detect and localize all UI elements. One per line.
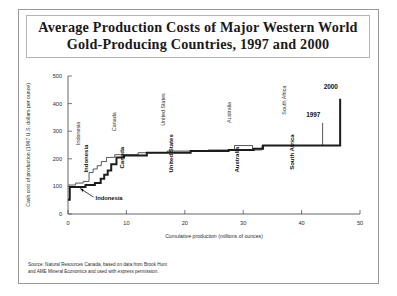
x-tick-label: 0 — [66, 220, 69, 226]
series-line-2000 — [68, 99, 340, 200]
country-label-thin-canada: Canada — [111, 112, 117, 131]
x-tick-label: 10 — [123, 220, 129, 226]
y-tick-label: 100 — [53, 183, 62, 189]
x-tick-label: 30 — [240, 220, 246, 226]
x-axis-title: Cumulative production (millions of ounce… — [165, 233, 263, 239]
indonesia-callout-label: Indonesia — [96, 195, 124, 201]
series-end-label-1997: 1997 — [306, 111, 321, 118]
indonesia-callout-arrowhead — [80, 189, 83, 192]
country-label-thin-indonesia: Indonesia — [75, 122, 81, 145]
chart-title-line-1: Average Production Costs of Major Wester… — [31, 19, 365, 36]
country-label-bold-canada: Canada — [119, 146, 125, 168]
y-tick-label: 400 — [53, 101, 62, 107]
country-label-bold-australia: Australia — [234, 146, 240, 172]
source-line-2: and AME Mineral Economics and used with … — [28, 269, 348, 275]
source-note: Source: Natural Resources Canada, based … — [28, 262, 348, 275]
y-axis-title: Cash cost of production (1997 U.S. dolla… — [25, 83, 31, 207]
plot-area: 010020030040050001020304050Cumulative pr… — [19, 62, 380, 247]
x-tick-label: 20 — [182, 220, 188, 226]
x-tick-label: 40 — [298, 220, 304, 226]
y-tick-label: 200 — [53, 156, 62, 162]
y-tick-label: 0 — [59, 211, 62, 217]
country-label-thin-south-africa: South Africa — [281, 86, 287, 115]
country-label-thin-australia: Australia — [226, 102, 232, 123]
y-tick-label: 300 — [53, 128, 62, 134]
country-label-bold-south-africa: South Africa — [289, 134, 295, 170]
x-tick-label: 50 — [357, 220, 363, 226]
figure-frame: Average Production Costs of Major Wester… — [18, 9, 379, 284]
step-line-chart: 010020030040050001020304050Cumulative pr… — [19, 62, 380, 247]
chart-title-box: Average Production Costs of Major Wester… — [26, 15, 370, 58]
series-end-label-2000: 2000 — [324, 83, 339, 90]
chart-title-line-2: Gold-Producing Countries, 1997 and 2000 — [31, 36, 365, 53]
country-label-bold-indonesia: Indonesia — [83, 144, 89, 173]
country-label-thin-united-states: United States — [160, 93, 166, 126]
country-label-bold-united-states: United States — [168, 134, 174, 173]
y-tick-label: 500 — [53, 73, 62, 79]
